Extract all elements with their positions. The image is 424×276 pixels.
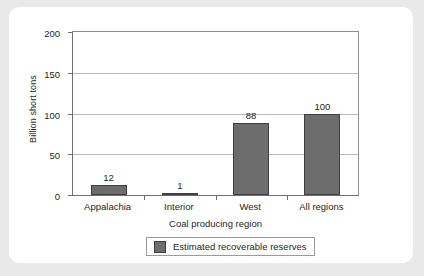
y-tick-label: 100: [44, 109, 60, 120]
gridline: [73, 73, 358, 74]
y-tick: 0: [68, 195, 73, 196]
y-tick: 50: [68, 154, 73, 155]
legend-label: Estimated recoverable reserves: [173, 241, 307, 252]
x-tick: [216, 195, 217, 200]
y-tick: 100: [68, 114, 73, 115]
y-tick-label: 0: [55, 191, 60, 202]
bar-value-label: 100: [314, 101, 330, 112]
chart-legend: Estimated recoverable reserves: [146, 237, 315, 256]
plot-area: 050100150200 12188100: [72, 31, 359, 196]
y-tick: 200: [68, 32, 73, 33]
x-axis-title: Coal producing region: [72, 218, 359, 229]
bar: 1: [162, 193, 198, 195]
x-tick-label: West: [239, 201, 260, 212]
figure-card: Billion short tons 050100150200 12188100…: [9, 7, 413, 263]
y-tick-label: 200: [44, 28, 60, 39]
bar-chart: Billion short tons 050100150200 12188100…: [9, 7, 413, 263]
bar: 100: [304, 114, 340, 196]
y-tick-label: 150: [44, 68, 60, 79]
bar-value-label: 88: [246, 110, 257, 121]
x-tick: [287, 195, 288, 200]
y-tick-label: 50: [49, 150, 60, 161]
x-tick-label: All regions: [299, 201, 343, 212]
bar-value-label: 12: [103, 172, 114, 183]
x-tick-label: Appalachia: [84, 201, 131, 212]
x-tick-label: Interior: [164, 201, 194, 212]
y-tick: 150: [68, 73, 73, 74]
bar: 88: [233, 123, 269, 195]
bar-value-label: 1: [177, 180, 182, 191]
y-axis-title: Billion short tons: [28, 44, 38, 174]
legend-swatch-icon: [154, 241, 166, 253]
screenshot-root: Billion short tons 050100150200 12188100…: [0, 0, 424, 276]
bar: 12: [91, 185, 127, 195]
x-tick: [144, 195, 145, 200]
